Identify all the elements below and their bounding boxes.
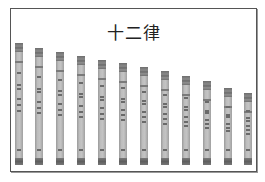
pipe-bottom-cap [161, 158, 169, 165]
pipe-character-mark [226, 123, 230, 125]
pipe-character-mark [184, 97, 188, 99]
pipe-character-mark [163, 113, 167, 115]
pipe-character-mark [246, 120, 250, 122]
pipe-character-mark [17, 98, 21, 100]
pipe-character-mark [37, 88, 41, 90]
pipe-character-mark [17, 149, 21, 151]
pitch-pipe-7 [140, 67, 148, 165]
pipe-character-mark [163, 118, 167, 120]
pipe-character-mark [142, 111, 146, 113]
pipe-character-mark [121, 87, 125, 89]
pipe-bottom-cap [140, 158, 148, 165]
pipe-character-mark [184, 149, 188, 151]
pipe-character-mark [205, 101, 209, 103]
pipe-character-mark [100, 113, 104, 115]
pipe-character-mark [58, 149, 62, 151]
pipe-character-mark [246, 117, 250, 119]
pipe-character-mark [121, 114, 125, 116]
pipe-character-mark [246, 129, 250, 131]
pipe-character-mark [37, 149, 41, 151]
pipe-top-cap [35, 48, 43, 57]
pitch-pipe-4 [77, 56, 85, 165]
pipe-character-mark [100, 85, 104, 87]
pitch-pipe-1 [15, 43, 23, 165]
pipe-character-mark [163, 123, 167, 125]
pipe-character-mark [58, 94, 62, 96]
pipe-character-mark [163, 106, 167, 108]
pipe-bottom-cap [203, 158, 211, 165]
pipe-character-mark [184, 106, 188, 108]
pipe-character-mark [58, 90, 62, 92]
pipe-character-mark [142, 116, 146, 118]
pitch-pipe-9 [182, 76, 190, 165]
pitch-pipe-2 [35, 48, 43, 165]
pipe-ring [35, 66, 43, 68]
pipe-character-mark [58, 79, 62, 81]
pipe-character-mark [37, 112, 41, 114]
pipe-character-mark [17, 72, 21, 74]
pipe-character-mark [205, 112, 209, 114]
pitch-pipe-11 [224, 88, 232, 165]
pipe-character-mark [79, 116, 83, 118]
pipe-top-cap [15, 43, 23, 52]
pipe-character-mark [226, 106, 230, 108]
pipe-character-mark [17, 88, 21, 90]
pipe-character-mark [142, 91, 146, 93]
pipe-character-mark [205, 119, 209, 121]
pipe-character-mark [37, 76, 41, 78]
pipe-character-mark [58, 103, 62, 105]
pipe-bottom-cap [119, 158, 127, 165]
pipe-character-mark [121, 98, 125, 100]
pipe-character-mark [37, 91, 41, 93]
pipe-character-mark [205, 149, 209, 151]
pipe-character-mark [17, 84, 21, 86]
pipe-character-mark [100, 99, 104, 101]
pipe-character-mark [121, 149, 125, 151]
pipe-ring [56, 70, 64, 72]
pipe-character-mark [163, 94, 167, 96]
pipe-character-mark [100, 96, 104, 98]
pipe-top-cap [56, 52, 64, 61]
diagram-title: 十二律 [11, 19, 256, 44]
pipe-character-mark [142, 121, 146, 123]
pipe-top-cap [98, 60, 106, 69]
pipe-bottom-cap [77, 158, 85, 165]
pipe-ring [77, 74, 85, 76]
pipe-bottom-cap [15, 158, 23, 165]
pipe-character-mark [163, 149, 167, 151]
pipe-character-mark [37, 107, 41, 109]
pipe-bottom-cap [98, 158, 106, 165]
pipe-character-mark [142, 100, 146, 102]
pitch-pipe-5 [98, 60, 106, 165]
pipe-character-mark [79, 82, 83, 84]
pipe-character-mark [246, 110, 250, 112]
pipe-character-mark [226, 149, 230, 151]
pipe-character-mark [226, 127, 230, 129]
diagram-frame: 十二律 [10, 8, 257, 172]
pipe-character-mark [184, 109, 188, 111]
pipe-top-cap [203, 81, 211, 90]
pitch-pipe-12 [244, 93, 252, 165]
pipe-character-mark [121, 101, 125, 103]
pitch-pipe-10 [203, 81, 211, 165]
pipe-character-mark [121, 119, 125, 121]
pipe-top-cap [119, 63, 127, 72]
pipe-bottom-cap [56, 158, 64, 165]
pipe-character-mark [79, 93, 83, 95]
pipe-ring [140, 85, 148, 87]
pipe-character-mark [184, 116, 188, 118]
pipe-top-cap [224, 88, 232, 97]
pipe-ring [98, 78, 106, 80]
pipe-character-mark [184, 121, 188, 123]
pipe-character-mark [184, 125, 188, 127]
pipe-ring [161, 89, 169, 91]
pipe-character-mark [79, 105, 83, 107]
pipe-ring [182, 94, 190, 96]
pipe-ring [15, 61, 23, 63]
pipe-bottom-cap [35, 158, 43, 165]
pipe-top-cap [140, 67, 148, 76]
pipe-top-cap [77, 56, 85, 65]
pipe-character-mark [246, 133, 250, 135]
pipe-character-mark [163, 103, 167, 105]
pipe-character-mark [58, 109, 62, 111]
